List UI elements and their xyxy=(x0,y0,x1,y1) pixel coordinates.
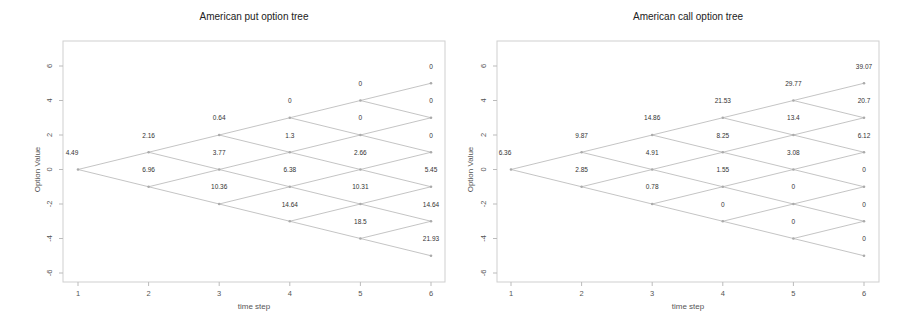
node-value-label: 1.55 xyxy=(716,166,729,173)
tree-edge xyxy=(149,152,220,169)
tree-edge xyxy=(652,135,723,152)
x-tick-label: 2 xyxy=(147,289,151,298)
tree-node xyxy=(218,203,221,206)
y-axis-label: Option Value xyxy=(466,146,475,192)
node-value-label: 14.64 xyxy=(423,201,440,208)
tree-edge xyxy=(219,152,290,169)
node-value-label: 6.12 xyxy=(858,132,871,139)
tree-node xyxy=(430,116,433,119)
tree-node xyxy=(792,99,795,102)
chart-canvas: American put option tree123456-6-4-20246… xyxy=(0,0,911,323)
tree-edge xyxy=(360,118,431,135)
tree-edge xyxy=(582,170,653,187)
tree-edge xyxy=(219,135,290,152)
tree-edge xyxy=(360,239,431,256)
tree-node xyxy=(863,254,866,257)
tree-edge xyxy=(219,118,290,135)
tree-node xyxy=(722,151,725,154)
tree-edge xyxy=(723,152,794,169)
y-tick-label: -4 xyxy=(45,235,54,242)
tree-node xyxy=(863,82,866,85)
node-value-label: 6.38 xyxy=(283,166,296,173)
tree-node xyxy=(580,151,583,154)
tree-node xyxy=(651,168,654,171)
node-value-label: 10.31 xyxy=(352,183,369,190)
node-value-label: 2.16 xyxy=(142,132,155,139)
tree-edge xyxy=(793,204,864,221)
tree-node xyxy=(863,185,866,188)
tree-edge xyxy=(290,187,361,204)
node-value-label: 0.78 xyxy=(646,183,659,190)
x-tick-label: 2 xyxy=(580,289,584,298)
node-value-label: 4.91 xyxy=(646,149,659,156)
chart-title: American call option tree xyxy=(633,11,743,22)
y-tick-label: -4 xyxy=(479,235,488,242)
node-value-label: 39.07 xyxy=(856,63,873,70)
tree-node xyxy=(359,168,362,171)
tree-node xyxy=(722,185,725,188)
node-value-label: 2.66 xyxy=(354,149,367,156)
tree-edge xyxy=(511,152,582,169)
tree-edge xyxy=(290,101,361,118)
y-tick-label: 6 xyxy=(479,64,488,68)
tree-node xyxy=(430,254,433,257)
node-value-label: 9.87 xyxy=(575,132,588,139)
tree-node xyxy=(863,116,866,119)
node-value-label: 14.86 xyxy=(644,114,661,121)
tree-edge xyxy=(360,204,431,221)
tree-edge xyxy=(652,170,723,187)
tree-edge xyxy=(793,101,864,118)
tree-edge xyxy=(219,204,290,221)
tree-node xyxy=(792,237,795,240)
chart-call-tree: American call option tree123456-6-4-2024… xyxy=(466,11,879,311)
node-value-label: 2.85 xyxy=(575,166,588,173)
node-value-label: 0 xyxy=(721,201,725,208)
x-tick-label: 6 xyxy=(862,289,866,298)
node-value-label: 8.25 xyxy=(716,132,729,139)
node-value-label: 0 xyxy=(862,166,866,173)
x-tick-label: 3 xyxy=(217,289,221,298)
y-tick-label: 4 xyxy=(45,98,54,102)
tree-node xyxy=(651,134,654,137)
node-value-label: 0 xyxy=(288,97,292,104)
tree-node xyxy=(289,116,292,119)
node-value-label: 3.08 xyxy=(787,149,800,156)
chart-put-tree: American put option tree123456-6-4-20246… xyxy=(33,11,445,311)
tree-edge xyxy=(652,204,723,221)
tree-edge xyxy=(723,221,794,238)
tree-edge xyxy=(582,135,653,152)
tree-edge xyxy=(290,152,361,169)
node-value-label: 0 xyxy=(429,97,433,104)
tree-edge xyxy=(652,118,723,135)
tree-node xyxy=(722,116,725,119)
tree-edge xyxy=(793,135,864,152)
node-value-label: 0 xyxy=(429,63,433,70)
tree-edge xyxy=(793,170,864,187)
tree-node xyxy=(863,220,866,223)
tree-edge xyxy=(723,135,794,152)
tree-node xyxy=(430,82,433,85)
y-tick-label: 0 xyxy=(45,167,54,171)
tree-node xyxy=(430,151,433,154)
tree-edge xyxy=(149,170,220,187)
tree-edge xyxy=(360,83,431,100)
tree-edge xyxy=(290,204,361,221)
tree-edge xyxy=(582,152,653,169)
tree-edge xyxy=(723,118,794,135)
tree-edge xyxy=(723,204,794,221)
tree-node xyxy=(359,134,362,137)
y-tick-label: 2 xyxy=(45,133,54,137)
node-value-label: 1.3 xyxy=(285,132,294,139)
tree-edge xyxy=(78,152,149,169)
tree-node xyxy=(147,185,150,188)
node-value-label: 0 xyxy=(429,132,433,139)
x-tick-label: 5 xyxy=(358,289,362,298)
node-value-label: 3.77 xyxy=(213,149,226,156)
tree-edge xyxy=(723,101,794,118)
tree-node xyxy=(359,237,362,240)
tree-edge xyxy=(219,170,290,187)
tree-edge xyxy=(793,83,864,100)
tree-node xyxy=(289,151,292,154)
chart-title: American put option tree xyxy=(200,11,309,22)
node-value-label: 13.4 xyxy=(787,114,800,121)
